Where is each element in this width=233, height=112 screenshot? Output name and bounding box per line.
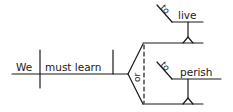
lower-marker-word: to	[159, 60, 173, 74]
conjunction-word: or	[132, 72, 142, 82]
lower-pedestal-triangle	[183, 98, 193, 104]
upper-marker-word: to	[159, 3, 173, 17]
sentence-diagram: We must learn or to live to perish	[0, 0, 233, 112]
lower-object-word: perish	[180, 66, 212, 78]
upper-object-word: live	[178, 9, 197, 21]
fork-upper	[128, 44, 143, 74]
verb-phrase: must learn	[45, 61, 101, 73]
upper-pedestal-triangle	[183, 37, 193, 43]
subject-word: We	[16, 61, 32, 73]
